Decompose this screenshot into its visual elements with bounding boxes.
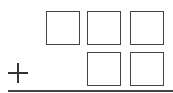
bottom-digit-box-ones[interactable] [130,52,164,86]
top-digit-box-tens[interactable] [87,11,121,45]
top-digit-box-hundreds[interactable] [46,11,80,45]
sum-line [8,90,173,92]
plus-icon [8,63,28,83]
bottom-digit-box-tens[interactable] [87,52,121,86]
top-digit-box-ones[interactable] [130,11,164,45]
